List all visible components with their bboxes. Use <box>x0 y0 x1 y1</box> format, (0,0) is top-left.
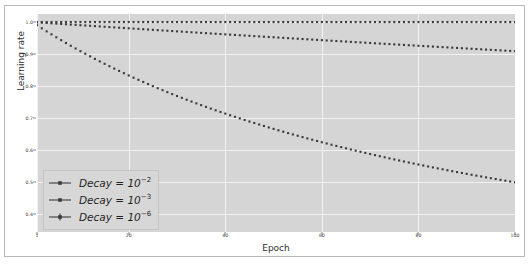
y-tick-label: 0.5 <box>25 180 33 185</box>
legend-marker-icon <box>48 178 72 188</box>
legend-label: Decay = 10−6 <box>79 210 151 223</box>
chart-figure: 0.40.50.60.70.80.91.0 120406080100 Epoch… <box>0 0 532 264</box>
legend-item: Decay = 10−3 <box>48 191 151 208</box>
y-tick-label: 0.7 <box>25 116 33 121</box>
x-tick-label: 80 <box>415 233 421 238</box>
y-tick-mark <box>33 182 36 183</box>
y-tick-mark <box>33 86 36 87</box>
y-tick-label: 0.9 <box>25 52 33 57</box>
y-tick-mark <box>33 118 36 119</box>
y-tick-label: 0.8 <box>25 84 33 89</box>
x-tick-label: 100 <box>511 233 520 238</box>
y-tick-label: 1.0 <box>25 20 33 25</box>
legend-marker-icon <box>48 195 72 205</box>
y-tick-mark <box>33 150 36 151</box>
y-tick-label: 0.6 <box>25 148 33 153</box>
y-tick-mark <box>33 54 36 55</box>
x-tick-label: 20 <box>126 233 132 238</box>
series-2 <box>37 21 515 52</box>
series-3 <box>37 21 515 23</box>
legend-label: Decay = 10−3 <box>79 193 151 206</box>
x-tick-label: 60 <box>319 233 325 238</box>
y-tick-mark <box>33 22 36 23</box>
y-axis-title: Learning rate <box>16 0 26 126</box>
x-axis-title: Epoch <box>37 243 515 253</box>
y-tick-label: 0.4 <box>25 212 33 217</box>
legend: Decay = 10−2Decay = 10−3Decay = 10−6 <box>43 170 159 230</box>
y-tick-mark <box>33 214 36 215</box>
legend-item: Decay = 10−2 <box>48 174 151 191</box>
legend-marker-icon <box>48 212 72 222</box>
legend-item: Decay = 10−6 <box>48 208 151 225</box>
x-tick-label: 1 <box>36 233 39 238</box>
legend-label: Decay = 10−2 <box>79 176 151 189</box>
x-tick-label: 40 <box>222 233 228 238</box>
